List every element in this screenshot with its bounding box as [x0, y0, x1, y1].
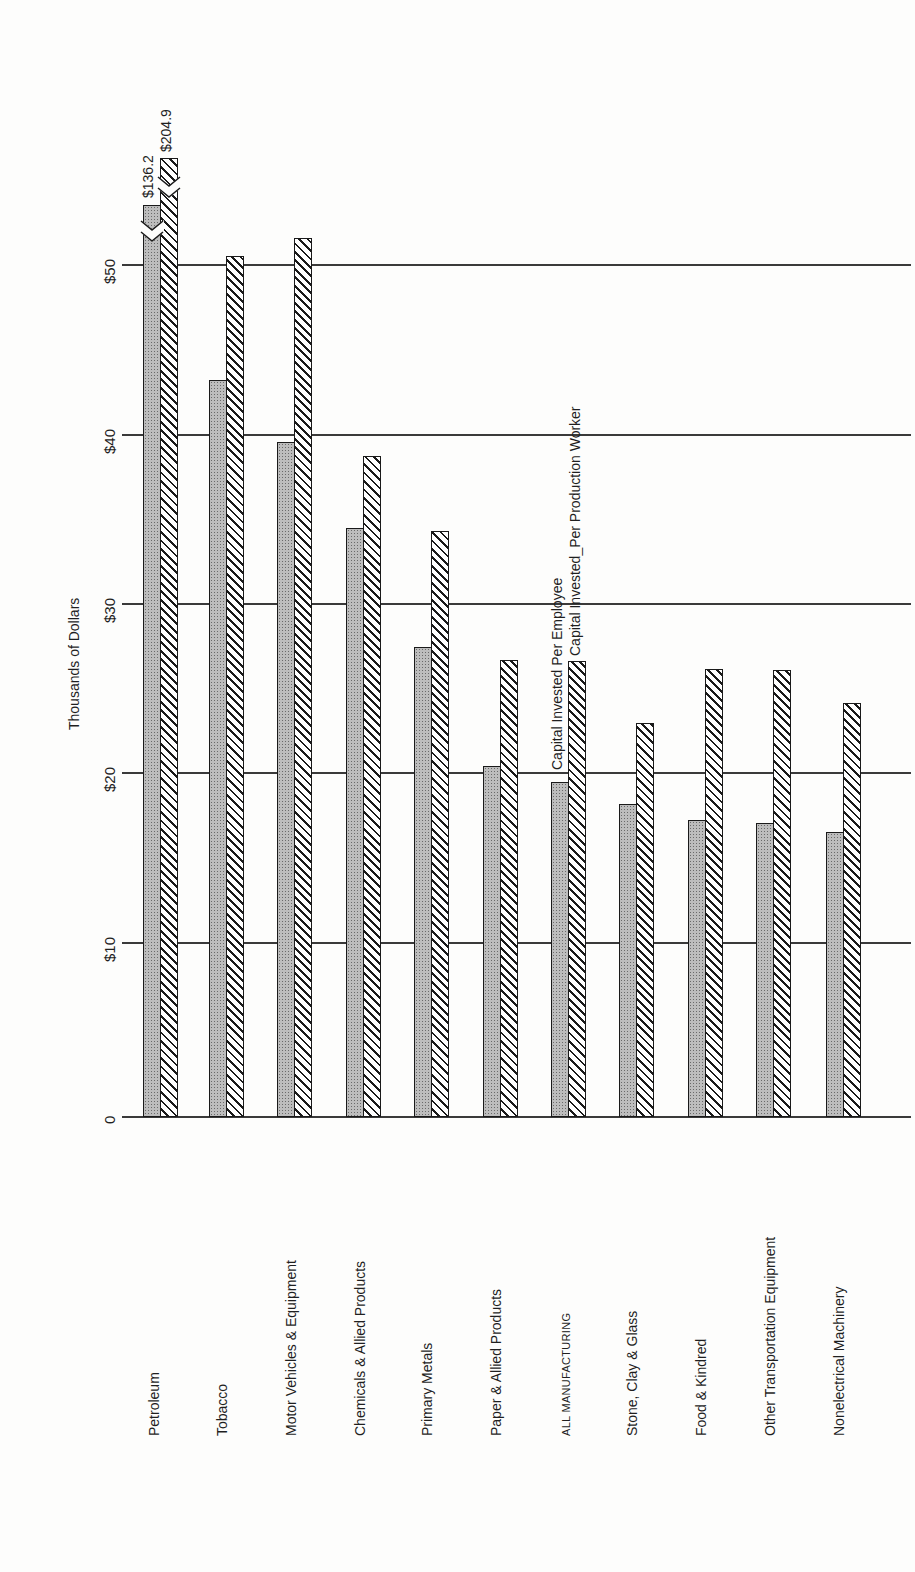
category-label-primary-metals: Primary Metals: [419, 1343, 435, 1436]
category-label-nonelectrical-machinery: Nonelectrical Machinery: [831, 1287, 847, 1436]
category-label-motor-vehicles: Motor Vehicles & Equipment: [283, 1260, 299, 1436]
y-tick-40: $40: [101, 429, 118, 454]
y-axis-label: Thousands of Dollars: [66, 598, 82, 730]
chart-canvas: Thousands of Dollars 0 $10 $20 $30 $40 $…: [0, 0, 915, 1572]
bar-all-manufacturing-worker: [568, 661, 586, 1117]
bar-paper-employee: [483, 766, 501, 1117]
bar-chemicals-employee: [346, 528, 364, 1117]
bar-paper-worker: [500, 660, 518, 1117]
bar-nonelectrical-machinery-employee: [826, 832, 844, 1117]
bar-motor-vehicles-worker: [294, 238, 312, 1117]
bar-other-transportation-worker: [773, 670, 791, 1117]
bar-tobacco-worker: [226, 256, 244, 1117]
break-mark-worker: [157, 176, 181, 198]
bar-other-transportation-employee: [756, 823, 774, 1117]
bar-primary-metals-worker: [431, 531, 449, 1117]
bar-primary-metals-employee: [414, 647, 432, 1117]
category-label-food-kindred: Food & Kindred: [693, 1339, 709, 1436]
y-tick-10: $10: [101, 937, 118, 962]
category-label-tobacco: Tobacco: [214, 1384, 230, 1436]
annotation-petroleum-employee: $136.2: [140, 155, 156, 198]
category-label-other-transportation: Other Transportation Equipment: [762, 1237, 778, 1436]
y-tick-50: $50: [101, 259, 118, 284]
bar-food-kindred-worker: [705, 669, 723, 1117]
bar-petroleum-employee: [143, 205, 161, 1117]
category-label-all-manufacturing: ALL MANUFACTURING: [560, 1313, 572, 1436]
bar-all-manufacturing-employee: [551, 782, 569, 1117]
bar-tobacco-employee: [209, 380, 227, 1117]
break-mark-employee: [140, 220, 164, 242]
y-tick-30: $30: [101, 598, 118, 623]
bar-chemicals-worker: [363, 456, 381, 1117]
bar-nonelectrical-machinery-worker: [843, 703, 861, 1117]
annotation-petroleum-worker: $204.9: [158, 109, 174, 152]
bar-stone-clay-glass-employee: [619, 804, 637, 1117]
bar-petroleum-worker: [160, 158, 178, 1117]
legend-employee: Capital Invested Per Employee: [549, 578, 565, 770]
category-label-paper: Paper & Allied Products: [488, 1289, 504, 1436]
category-label-stone-clay-glass: Stone, Clay & Glass: [624, 1311, 640, 1436]
bar-food-kindred-employee: [688, 820, 706, 1117]
category-label-chemicals: Chemicals & Allied Products: [352, 1261, 368, 1436]
bar-stone-clay-glass-worker: [636, 723, 654, 1117]
y-tick-0: 0: [101, 1116, 118, 1124]
bar-motor-vehicles-employee: [277, 442, 295, 1117]
category-label-petroleum: Petroleum: [146, 1372, 162, 1436]
legend-worker: Capital Invested_Per Production Worker: [567, 406, 583, 656]
y-tick-20: $20: [101, 767, 118, 792]
